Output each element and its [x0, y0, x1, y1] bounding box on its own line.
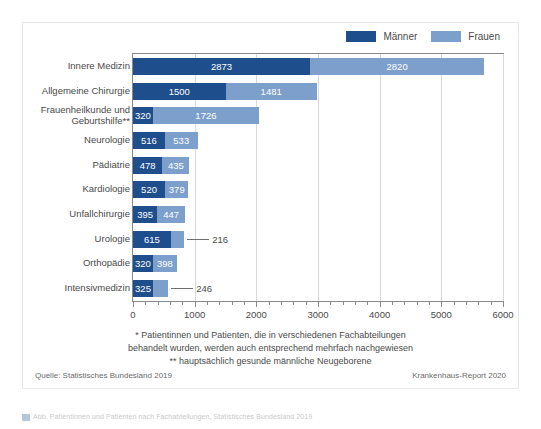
x-tick-label: 5000 — [431, 309, 452, 320]
x-tick-label: 1000 — [184, 309, 205, 320]
y-axis-label-6: Unfallchirurgie — [23, 208, 130, 219]
x-tick-minor — [281, 302, 282, 305]
y-axis-label-line: Geburtshilfe** — [23, 115, 130, 126]
x-tick-minor — [454, 302, 455, 305]
chart-legend: Männer Frauen — [346, 31, 500, 42]
y-axis-label-line: Urologie — [23, 233, 130, 244]
x-tick-minor — [367, 302, 368, 305]
x-tick-major — [503, 302, 504, 307]
y-axis-label-2: Frauenheilkunde undGeburtshilfe** — [23, 104, 130, 126]
x-tick-minor — [491, 302, 492, 305]
value-leader-line — [171, 288, 193, 289]
bar-value-label: 1726 — [153, 107, 259, 124]
bar-value-label: 1481 — [226, 83, 317, 100]
plot-area: 2873282015001481320172651653347843552037… — [132, 53, 504, 302]
x-tick-label: 2000 — [246, 309, 267, 320]
x-tick-minor — [429, 302, 430, 305]
x-tick-minor — [417, 302, 418, 305]
chart-footnotes: * Patientinnen und Patienten, die in ver… — [23, 329, 518, 368]
x-tick-minor — [355, 302, 356, 305]
x-tick-major — [441, 302, 442, 307]
y-axis-label-line: Unfallchirurgie — [23, 208, 130, 219]
x-tick-minor — [244, 302, 245, 305]
bar-row: 395447 — [133, 206, 503, 223]
bar-value-label: 516 — [133, 132, 165, 149]
legend-label-frauen: Frauen — [468, 31, 500, 42]
bar-segment-frauen — [171, 231, 184, 248]
y-axis-label-line: Pädiatrie — [23, 159, 130, 170]
y-axis-label-8: Orthopädie — [23, 257, 130, 268]
y-axis-label-line: Kardiologie — [23, 183, 130, 194]
legend-swatch-frauen — [431, 31, 461, 42]
report-label: Krankenhaus-Report 2020 — [412, 371, 506, 380]
figure-caption: Abb. Patientinnen und Patienten nach Fac… — [33, 413, 312, 420]
source-label: Quelle: Statistisches Bundesland 2019 — [35, 371, 172, 380]
y-axis-label-line: Allgemeine Chirurgie — [23, 85, 130, 96]
bar-value-label: 320 — [133, 107, 153, 124]
y-axis-label-line: Orthopädie — [23, 257, 130, 268]
bar-value-label-outside: 216 — [212, 231, 228, 248]
caption-marker-icon — [22, 414, 30, 421]
bar-value-label: 615 — [133, 231, 171, 248]
x-tick-minor — [182, 302, 183, 305]
x-tick-label: 6000 — [492, 309, 513, 320]
bar-row: 320398 — [133, 255, 503, 272]
footnote-line-1: * Patientinnen und Patienten, die in ver… — [23, 329, 518, 342]
y-axis-label-5: Kardiologie — [23, 183, 130, 194]
legend-entry-frauen: Frauen — [431, 31, 500, 42]
y-axis-label-line: Intensivmedizin — [23, 282, 130, 293]
bar-row: 615216 — [133, 231, 503, 248]
y-axis-label-9: Intensivmedizin — [23, 282, 130, 293]
x-tick-minor — [145, 302, 146, 305]
x-tick-minor — [232, 302, 233, 305]
bar-value-label: 520 — [133, 181, 165, 198]
x-tick-minor — [293, 302, 294, 305]
x-tick-label: 3000 — [307, 309, 328, 320]
footnote-line-3: ** hauptsächlich gesunde männliche Neuge… — [23, 355, 518, 368]
bar-row: 15001481 — [133, 83, 503, 100]
bar-row: 28732820 — [133, 58, 503, 75]
value-leader-line — [187, 239, 209, 240]
x-tick-minor — [392, 302, 393, 305]
bar-value-label: 398 — [153, 255, 178, 272]
legend-label-maenner: Männer — [383, 31, 417, 42]
bar-value-label: 2820 — [310, 58, 484, 75]
bar-segment-frauen — [153, 280, 168, 297]
x-tick-minor — [306, 302, 307, 305]
y-axis-category-labels: Innere MedizinAllgemeine ChirurgieFrauen… — [23, 53, 130, 300]
x-axis: 0100020003000400050006000 — [132, 302, 504, 324]
x-tick-label: 0 — [130, 309, 135, 320]
x-tick-major — [133, 302, 134, 307]
bar-value-label: 395 — [133, 206, 157, 223]
x-tick-minor — [404, 302, 405, 305]
y-axis-label-3: Neurologie — [23, 134, 130, 145]
x-tick-minor — [219, 302, 220, 305]
y-axis-label-1: Allgemeine Chirurgie — [23, 85, 130, 96]
bar-row: 520379 — [133, 181, 503, 198]
bar-value-label: 533 — [165, 132, 198, 149]
x-tick-minor — [158, 302, 159, 305]
y-axis-label-0: Innere Medizin — [23, 60, 130, 71]
x-tick-minor — [269, 302, 270, 305]
footnote-line-2: behandelt wurden, werden auch entspreche… — [23, 342, 518, 355]
bar-value-label: 435 — [162, 157, 189, 174]
x-tick-major — [195, 302, 196, 307]
bar-value-label-outside: 246 — [196, 280, 212, 297]
bar-row: 3201726 — [133, 107, 503, 124]
x-tick-major — [380, 302, 381, 307]
legend-entry-maenner: Männer — [346, 31, 417, 42]
bar-value-label: 1500 — [133, 83, 226, 100]
y-axis-label-4: Pädiatrie — [23, 159, 130, 170]
bar-value-label: 320 — [133, 255, 153, 272]
x-tick-minor — [330, 302, 331, 305]
bar-row: 516533 — [133, 132, 503, 149]
x-tick-major — [318, 302, 319, 307]
x-tick-label: 4000 — [369, 309, 390, 320]
bar-value-label: 379 — [165, 181, 188, 198]
y-axis-label-7: Urologie — [23, 233, 130, 244]
bar-value-label: 2873 — [133, 58, 310, 75]
plot-wrapper: Innere MedizinAllgemeine ChirurgieFrauen… — [23, 53, 520, 313]
bar-value-label: 478 — [133, 157, 162, 174]
bar-value-label: 325 — [133, 280, 153, 297]
bar-row: 325246 — [133, 280, 503, 297]
